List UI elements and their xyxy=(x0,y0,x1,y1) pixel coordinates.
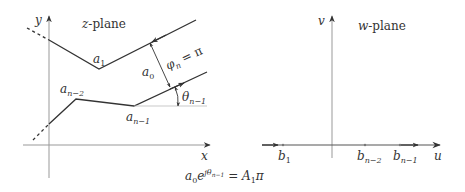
upper-direction-arrow xyxy=(152,35,166,42)
vertex-a1-label: a1 xyxy=(93,52,105,68)
theta-label: θn−1 xyxy=(182,90,206,106)
lower-boundary-dashed xyxy=(33,124,49,140)
vertex-an2-label: an−2 xyxy=(60,82,84,98)
v-axis-label: v xyxy=(318,14,325,28)
mapping-equation: a0ejθn−1 = A1π xyxy=(185,168,265,185)
upper-boundary-dashed xyxy=(27,28,49,40)
z-plane-title: z-plane xyxy=(81,17,126,31)
point-bn2 xyxy=(364,144,366,146)
point-b1-label: b1 xyxy=(278,149,291,165)
point-bn1 xyxy=(399,144,401,146)
point-b1 xyxy=(282,144,284,146)
width-a0-label: a0 xyxy=(142,65,154,81)
phi-label: φn = π xyxy=(163,43,205,74)
point-bn2-label: bn−2 xyxy=(357,149,382,165)
w-plane-title: w-plane xyxy=(358,19,406,33)
theta-arc xyxy=(175,87,178,106)
y-axis-label: y xyxy=(34,13,42,27)
w-plane: v w-plane u b1 bn−2 bn−1 xyxy=(262,14,442,165)
conformal-map-diagram: y x z-plane a1 an−2 an−1 xyxy=(0,0,465,192)
x-axis-label: x xyxy=(201,149,208,163)
point-bn1-label: bn−1 xyxy=(393,149,418,165)
lower-direction-arrow xyxy=(170,83,184,89)
vertex-an1-label: an−1 xyxy=(126,110,150,126)
z-plane: y x z-plane a1 an−2 an−1 xyxy=(23,13,210,178)
u-axis-label: u xyxy=(434,149,442,163)
